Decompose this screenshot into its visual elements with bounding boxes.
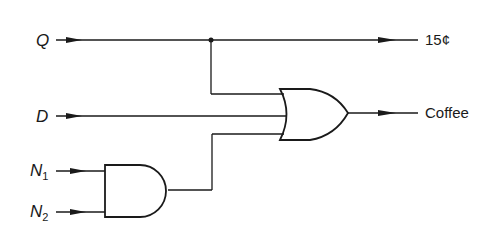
n1-main: N — [30, 161, 42, 180]
arrow-icon — [378, 37, 396, 43]
input-label-n2: N2 — [30, 203, 48, 223]
arrow-icon — [70, 209, 86, 215]
input-label-q: Q — [36, 32, 49, 49]
input-label-d: D — [36, 108, 48, 125]
junction-dot — [209, 38, 214, 43]
input-label-n1: N1 — [30, 162, 48, 182]
arrow-icon — [378, 110, 396, 116]
n2-main: N — [30, 202, 42, 221]
output-label-15c: 15¢ — [425, 32, 450, 47]
n2-sub: 2 — [42, 211, 48, 223]
or-gate — [280, 89, 348, 140]
logic-diagram: Q D N1 N2 15¢ Coffee — [0, 0, 499, 237]
arrow-icon — [66, 37, 82, 43]
arrow-icon — [66, 113, 82, 119]
output-label-coffee: Coffee — [425, 105, 469, 120]
n1-sub: 1 — [42, 170, 48, 182]
and-gate — [105, 165, 166, 217]
arrow-icon — [70, 168, 86, 174]
